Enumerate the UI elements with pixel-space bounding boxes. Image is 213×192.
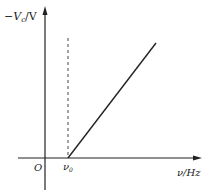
data-line bbox=[68, 43, 156, 158]
diagram-canvas: −Vc/V O ν0 ν/Hz bbox=[0, 0, 213, 192]
nu0-label: ν0 bbox=[63, 161, 73, 173]
origin-label: O bbox=[34, 162, 42, 173]
plot-svg: −Vc/V O ν0 ν/Hz bbox=[0, 0, 213, 192]
y-axis-arrow-icon bbox=[43, 6, 48, 15]
x-axis-arrow-icon bbox=[193, 156, 202, 161]
y-axis-label: −Vc/V bbox=[4, 10, 38, 24]
x-axis-label: ν/Hz bbox=[177, 167, 201, 178]
